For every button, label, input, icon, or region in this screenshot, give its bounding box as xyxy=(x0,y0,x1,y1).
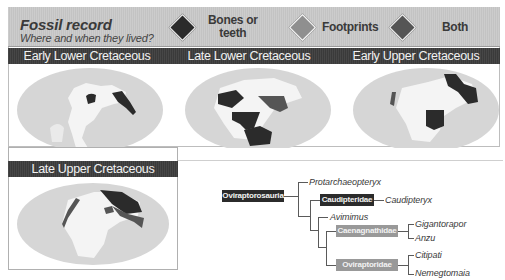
branch-line xyxy=(298,182,308,183)
branch-line xyxy=(398,265,408,266)
map-late-upper-cretaceous xyxy=(16,182,170,266)
branch-line xyxy=(284,196,298,197)
period-bar-early-lower: Early Lower Cretaceous xyxy=(8,48,166,64)
taxon-nemegtomaia: Nemegtomaia xyxy=(415,268,470,278)
legend-label-both: Both xyxy=(442,21,468,34)
period-label: Late Upper Cretaceous xyxy=(32,162,155,176)
taxon-citipati: Citipati xyxy=(415,250,442,260)
legend-item-bones: Bones or teeth xyxy=(168,12,258,42)
period-bar-early-upper: Early Upper Cretaceous xyxy=(332,48,500,64)
branch-line xyxy=(318,217,328,218)
branch-line xyxy=(298,216,310,217)
clade-caenagnathidae: Caenagnathidae xyxy=(336,225,398,237)
diamond-icon xyxy=(289,14,316,41)
legend-item-footprints: Footprints xyxy=(288,12,378,42)
diamond-icon xyxy=(169,14,196,41)
period-bar-late-lower: Late Lower Cretaceous xyxy=(166,48,332,64)
branch-line xyxy=(310,230,318,231)
branch-line xyxy=(398,231,408,232)
taxon-avimimus: Avimimus xyxy=(330,212,368,222)
taxon-protarchaeopteryx: Protarchaeopteryx xyxy=(309,177,381,187)
map-early-lower-cretaceous xyxy=(16,68,164,148)
period-label: Late Lower Cretaceous xyxy=(188,49,311,63)
period-label: Early Upper Cretaceous xyxy=(353,49,480,63)
legend-item-both: Both xyxy=(388,12,468,42)
map-late-lower-cretaceous xyxy=(184,68,332,148)
branch-line xyxy=(326,265,336,266)
diamond-icon xyxy=(389,14,416,41)
branch-line xyxy=(408,224,414,225)
branch-line xyxy=(408,255,414,256)
page-title: Fossil record xyxy=(20,16,112,33)
period-bar-late-upper: Late Upper Cretaceous xyxy=(8,161,178,177)
legend-text: teeth xyxy=(208,27,258,40)
branch-line xyxy=(326,231,336,232)
clade-oviraptorosauria: Oviraptorosauria xyxy=(222,190,284,202)
legend-label-bones: Bones or teeth xyxy=(208,14,258,40)
branch-line xyxy=(326,231,327,265)
branch-line xyxy=(318,217,319,247)
taxon-caudipteryx: Caudipteryx xyxy=(385,195,432,205)
branch-line xyxy=(374,200,384,201)
branch-line xyxy=(408,255,409,274)
branch-line xyxy=(298,182,299,216)
taxon-anzu: Anzu xyxy=(415,233,435,243)
header-bar: Fossil record Where and when they lived?… xyxy=(8,7,500,47)
branch-line xyxy=(408,238,414,239)
period-label: Early Lower Cretaceous xyxy=(24,49,151,63)
branch-line xyxy=(318,247,326,248)
legend-label-footprints: Footprints xyxy=(322,21,378,34)
clade-caudipteridae: Caudipteridae xyxy=(320,194,374,206)
map-early-upper-cretaceous xyxy=(352,68,500,148)
branch-line xyxy=(310,200,311,230)
section-divider xyxy=(178,160,503,161)
clade-oviraptoridae: Oviraptoridae xyxy=(336,259,398,271)
page-subtitle: Where and when they lived? xyxy=(20,32,154,44)
branch-line xyxy=(408,274,414,275)
taxon-gigantoraptor: Gigantorapor xyxy=(415,219,466,229)
branch-line xyxy=(408,224,409,238)
branch-line xyxy=(310,200,320,201)
